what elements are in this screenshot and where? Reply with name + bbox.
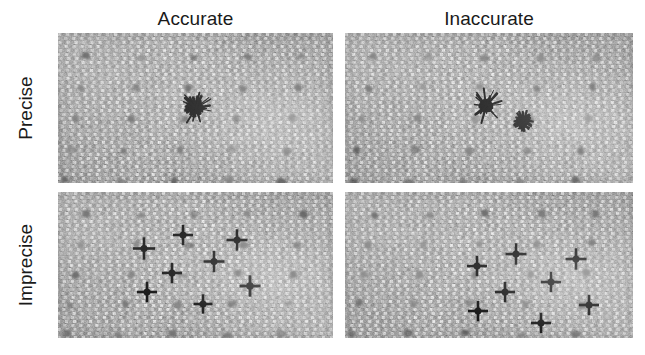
peg-dot bbox=[114, 332, 122, 338]
peg-dot bbox=[168, 330, 177, 337]
peg-dot bbox=[77, 85, 84, 91]
panel-marks-layer bbox=[345, 33, 633, 183]
peg-dot-light bbox=[605, 314, 609, 318]
peg-dot bbox=[276, 330, 285, 338]
peg-dot bbox=[185, 243, 194, 249]
row-heading-imprecise-label: Imprecise bbox=[15, 224, 37, 306]
cross-center-blob bbox=[140, 245, 147, 252]
column-heading-accurate: Accurate bbox=[58, 8, 333, 30]
peg-dot-light bbox=[353, 316, 357, 320]
peg-dot-light bbox=[615, 157, 619, 161]
peg-dot bbox=[297, 53, 304, 59]
panel-marks-layer bbox=[345, 192, 633, 338]
peg-dot bbox=[480, 55, 489, 61]
peg-dot bbox=[410, 299, 417, 307]
peg-dot bbox=[118, 179, 125, 183]
peg-dot-light bbox=[482, 315, 487, 320]
peg-dot bbox=[81, 52, 90, 59]
panel-accurate-imprecise bbox=[58, 192, 333, 338]
panel-inaccurate-imprecise bbox=[345, 192, 633, 338]
accuracy-precision-figure: Accurate Inaccurate Precise Imprecise bbox=[0, 0, 645, 355]
cross-center-blob bbox=[473, 262, 480, 269]
peg-dot bbox=[577, 147, 584, 155]
cross-center-blob bbox=[512, 250, 519, 257]
peg-dot bbox=[538, 210, 546, 218]
cross-mark bbox=[506, 243, 527, 264]
peg-dot bbox=[537, 54, 544, 62]
peg-dot bbox=[353, 147, 360, 154]
panel-accurate-precise bbox=[58, 33, 333, 183]
panel-marks-layer bbox=[58, 33, 333, 183]
peg-dot bbox=[240, 241, 248, 248]
peg-dot bbox=[350, 178, 358, 183]
peg-dot bbox=[177, 146, 184, 154]
peg-dot bbox=[243, 211, 251, 217]
cross-mark bbox=[173, 225, 193, 245]
cross-center-blob bbox=[143, 288, 150, 295]
peg-dot bbox=[356, 299, 363, 307]
peg-dot-grid bbox=[350, 53, 619, 183]
peg-dot bbox=[476, 241, 483, 247]
cross-mark bbox=[240, 275, 261, 296]
cross-center-blob bbox=[210, 258, 217, 265]
peg-dot bbox=[365, 85, 373, 92]
peg-dot bbox=[404, 329, 413, 336]
peg-dot bbox=[243, 54, 253, 60]
cross-mark bbox=[495, 282, 515, 302]
peg-dot bbox=[299, 210, 308, 218]
peg-dot bbox=[77, 242, 86, 249]
cross-center-blob bbox=[199, 300, 206, 307]
cross-mark bbox=[467, 256, 487, 276]
peg-dot bbox=[588, 240, 596, 246]
peg-dot bbox=[360, 271, 369, 278]
peg-dot bbox=[223, 332, 232, 338]
peg-dot bbox=[533, 240, 541, 248]
cross-center-blob bbox=[537, 319, 544, 326]
peg-dot bbox=[127, 271, 135, 278]
peg-dot bbox=[72, 272, 80, 279]
peg-dot bbox=[416, 270, 424, 278]
peg-dot bbox=[63, 329, 71, 337]
panel-inaccurate-precise bbox=[345, 33, 633, 183]
cross-mark bbox=[541, 272, 561, 292]
peg-dot bbox=[589, 83, 596, 91]
peg-dot bbox=[358, 115, 367, 123]
peg-dot bbox=[371, 212, 378, 218]
mark-group bbox=[510, 107, 536, 135]
peg-dot bbox=[131, 84, 139, 91]
peg-dot bbox=[133, 240, 140, 247]
peg-dot-light bbox=[188, 315, 193, 320]
cross-mark bbox=[194, 294, 213, 313]
peg-dot bbox=[228, 145, 235, 153]
cross-center-blob bbox=[547, 278, 554, 285]
peg-dot bbox=[288, 114, 296, 122]
peg-dot bbox=[533, 85, 540, 92]
panel-marks-layer bbox=[58, 192, 333, 338]
peg-dot bbox=[527, 271, 534, 278]
peg-dot bbox=[174, 301, 182, 309]
cross-mark bbox=[579, 295, 599, 315]
peg-dot bbox=[348, 331, 355, 337]
column-heading-inaccurate: Inaccurate bbox=[345, 8, 633, 30]
peg-dot bbox=[465, 147, 473, 155]
peg-dot bbox=[413, 114, 422, 121]
peg-dot bbox=[285, 300, 293, 306]
peg-dot-light bbox=[192, 159, 197, 164]
peg-dot bbox=[523, 300, 530, 308]
peg-dot bbox=[582, 269, 591, 277]
cross-mark bbox=[137, 282, 157, 302]
peg-dot bbox=[138, 55, 145, 61]
peg-dot-grid bbox=[63, 210, 310, 338]
cross-center-blob bbox=[501, 288, 508, 295]
cross-center-blob bbox=[179, 231, 186, 238]
peg-dot bbox=[517, 178, 524, 183]
peg-dot bbox=[190, 55, 198, 61]
peg-dot bbox=[571, 176, 579, 183]
peg-dot bbox=[424, 53, 431, 60]
peg-dot bbox=[405, 179, 414, 183]
peg-dot bbox=[472, 115, 479, 123]
cross-center-blob bbox=[585, 301, 592, 308]
peg-dot bbox=[419, 83, 427, 90]
peg-dot bbox=[81, 210, 90, 218]
peg-dot bbox=[191, 211, 198, 219]
